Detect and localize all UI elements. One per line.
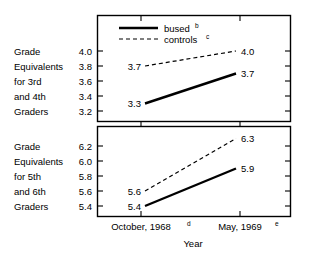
line-chart: 4.0 3.8 3.6 3.4 3.2 Grade Equivalents fo… (0, 0, 309, 261)
lower-ytick-label-2: 6.0 (79, 156, 92, 167)
upper-ytick-label-4: 3.4 (79, 91, 92, 102)
legend-label-bused: bused (164, 23, 190, 34)
xaxis-title: Year (183, 238, 202, 249)
lower-axis-title-line-4: and 6th (14, 186, 46, 197)
upper-controls-start-value: 3.7 (128, 61, 141, 72)
figure-container: 4.0 3.8 3.6 3.4 3.2 Grade Equivalents fo… (0, 0, 309, 261)
lower-axis-title-line-2: Equivalents (14, 156, 63, 167)
upper-bused-start-value: 3.3 (128, 98, 141, 109)
lower-ytick-label-4: 5.6 (79, 186, 92, 197)
upper-axis-title-line-5: Graders (14, 106, 49, 117)
upper-axis-title-line-4: and 4th (14, 91, 46, 102)
lower-series-controls-line (145, 139, 236, 192)
lower-controls-start-value: 5.6 (128, 186, 141, 197)
upper-ytick-label-2: 3.8 (79, 61, 92, 72)
upper-bused-end-value: 3.7 (241, 68, 254, 79)
lower-ytick-label-3: 5.8 (79, 171, 92, 182)
legend-label-controls: controls (164, 34, 198, 45)
upper-controls-end-value: 4.0 (241, 46, 254, 57)
upper-ytick-label-3: 3.6 (79, 76, 92, 87)
lower-bused-start-value: 5.4 (128, 201, 141, 212)
upper-axis-title-line-3: for 3rd (14, 76, 41, 87)
lower-ytick-label-1: 6.2 (79, 141, 92, 152)
upper-series-bused-line (145, 74, 236, 104)
upper-axis-title-line-1: Grade (14, 46, 40, 57)
lower-series-bused-line (145, 169, 236, 207)
xaxis-category-2: May, 1969 (218, 221, 262, 232)
xaxis-category-1-superscript: d (187, 220, 191, 227)
lower-bused-end-value: 5.9 (241, 163, 254, 174)
upper-panel-frame (98, 16, 291, 122)
xaxis-category-1: October, 1968 (111, 221, 171, 232)
lower-axis-title-line-1: Grade (14, 141, 40, 152)
upper-ytick-label-5: 3.2 (79, 106, 92, 117)
upper-axis-title-line-2: Equivalents (14, 61, 63, 72)
lower-axis-title-line-5: Graders (14, 201, 49, 212)
xaxis-category-2-superscript: e (275, 220, 279, 227)
lower-axis-title-line-3: for 5th (14, 171, 41, 182)
lower-ytick-label-5: 5.4 (79, 201, 92, 212)
lower-panel-frame (98, 127, 291, 217)
legend-superscript-bused: b (195, 22, 199, 29)
upper-series-controls-line (145, 51, 236, 66)
upper-ytick-label-1: 4.0 (79, 46, 92, 57)
lower-controls-end-value: 6.3 (241, 133, 254, 144)
legend-superscript-controls: c (206, 33, 210, 40)
